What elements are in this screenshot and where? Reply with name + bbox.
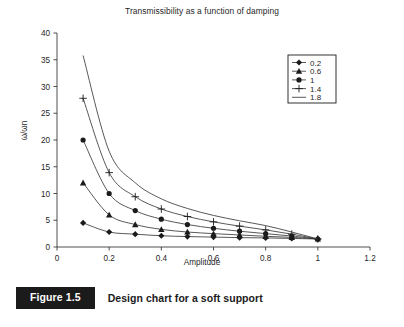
data-point-marker [296,77,301,82]
data-point-marker [159,217,164,222]
y-tick-label: 5 [45,216,50,225]
data-point-marker [158,233,164,239]
legend-label: 1.8 [310,93,322,102]
x-tick-label: 0.8 [260,254,272,263]
data-point-marker [185,222,190,227]
data-point-marker [107,191,112,196]
data-point-marker [131,193,139,201]
data-point-marker [80,137,85,142]
data-point-marker [262,226,270,234]
y-tick-label: 40 [41,29,51,38]
y-tick-label: 10 [41,190,51,199]
plot-svg: 00.20.40.60.811.205101520253035400.20.61… [0,0,404,272]
x-tick-label: 0 [55,254,60,263]
legend-label: 0.2 [310,59,322,68]
series-line [83,183,318,239]
series-1-8 [83,55,318,239]
figure-caption: Figure 1.5 Design chart for a soft suppo… [0,283,404,313]
figure-number-badge: Figure 1.5 [16,287,95,309]
series-0-2 [80,220,321,242]
data-point-marker [158,205,166,213]
data-point-marker [210,218,218,226]
data-point-marker [132,231,138,237]
series-0-6 [80,180,321,242]
legend-label: 1.4 [310,85,322,94]
figure-caption-text: Design chart for a soft support [108,292,263,304]
data-point-marker [80,220,86,226]
data-point-marker [105,169,113,177]
series-line [83,98,318,239]
series-1-4 [79,94,321,242]
data-point-marker [80,180,86,186]
series-line [83,55,318,239]
figure-container: Transmissibility as a function of dampin… [0,0,404,327]
legend-label: 1 [310,76,315,85]
data-point-marker [79,94,87,102]
y-tick-label: 15 [41,163,51,172]
data-point-marker [133,208,138,213]
y-tick-label: 35 [41,56,51,65]
data-point-marker [211,226,216,231]
y-tick-label: 20 [41,136,51,145]
chart-area: Transmissibility as a function of dampin… [0,0,404,272]
x-tick-label: 0.4 [156,254,168,263]
data-point-marker [106,229,112,235]
legend-label: 0.6 [310,67,322,76]
series-line [83,140,318,239]
chart-legend: 0.20.611.41.8 [288,55,336,103]
x-tick-label: 0.2 [103,254,115,263]
y-tick-label: 25 [41,109,51,118]
data-point-marker [236,222,244,230]
x-tick-label: 0.6 [208,254,220,263]
data-point-marker [184,213,192,221]
y-tick-label: 30 [41,83,51,92]
y-tick-label: 0 [45,243,50,252]
series-1 [80,137,320,241]
x-tick-label: 1.2 [364,254,376,263]
x-tick-label: 1 [316,254,321,263]
